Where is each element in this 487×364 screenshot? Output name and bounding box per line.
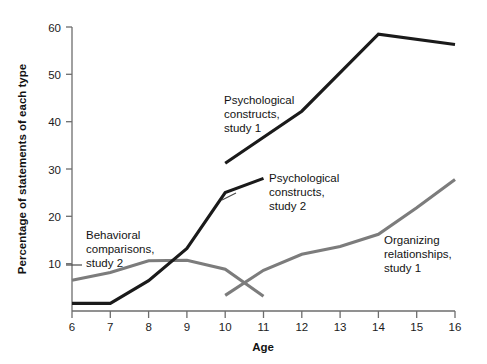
- y-axis: [66, 27, 72, 311]
- annotation-psych-2-line-1: Psychological: [269, 172, 339, 184]
- y-tick-label-50: 50: [48, 69, 61, 81]
- x-tick-labels: 6 7 8 9 10 11 12 13 14 15 16: [69, 321, 462, 333]
- annotation-behavioral-line-2: comparisons,: [86, 243, 154, 255]
- annotation-organizing-line-2: relationships,: [384, 248, 452, 260]
- x-tick-label-10: 10: [219, 321, 232, 333]
- x-tick-label-11: 11: [258, 321, 270, 333]
- annotation-behavioral-line-1: Behavioral: [86, 229, 140, 241]
- x-axis: [72, 311, 455, 318]
- y-tick-label-30: 30: [48, 164, 61, 176]
- annotation-psych-1-line-3: study 1: [224, 122, 261, 134]
- annotation-psych-1-line-1: Psychological: [224, 94, 294, 106]
- x-tick-label-6: 6: [69, 321, 75, 333]
- annotation-psychological-constructs-study-1: Psychological constructs, study 1: [224, 94, 294, 134]
- x-tick-label-15: 15: [410, 321, 423, 333]
- x-axis-title: Age: [252, 341, 274, 353]
- annotation-organizing-line-1: Organizing: [384, 234, 440, 246]
- x-tick-label-14: 14: [372, 321, 385, 333]
- line-chart: 60 50 40 30 20 10 6 7 8 9 10 11 12 13 14…: [0, 0, 487, 364]
- y-tick-label-40: 40: [48, 116, 61, 128]
- y-tick-label-20: 20: [48, 211, 61, 223]
- y-tick-label-10: 10: [48, 258, 61, 270]
- y-tick-labels: 60 50 40 30 20 10: [48, 22, 61, 271]
- x-tick-label-16: 16: [449, 321, 462, 333]
- chart-figure: 60 50 40 30 20 10 6 7 8 9 10 11 12 13 14…: [0, 0, 487, 364]
- annotation-psychological-constructs-study-2: Psychological constructs, study 2: [269, 172, 339, 212]
- annotation-psych-2-line-3: study 2: [269, 200, 306, 212]
- annotation-psych-1-line-2: constructs,: [224, 108, 280, 120]
- annotation-psych-2-line-2: constructs,: [269, 186, 325, 198]
- x-tick-label-8: 8: [145, 321, 151, 333]
- x-tick-label-9: 9: [184, 321, 190, 333]
- x-tick-label-12: 12: [295, 321, 308, 333]
- annotation-organizing-relationships-study-1: Organizing relationships, study 1: [384, 234, 452, 274]
- annotation-behavioral-line-3: study 2: [86, 257, 123, 269]
- annotation-organizing-line-3: study 1: [384, 262, 421, 274]
- x-tick-label-13: 13: [334, 321, 347, 333]
- y-axis-title: Percentage of statements of each type: [16, 64, 28, 274]
- y-tick-label-60: 60: [48, 22, 61, 34]
- x-tick-label-7: 7: [107, 321, 113, 333]
